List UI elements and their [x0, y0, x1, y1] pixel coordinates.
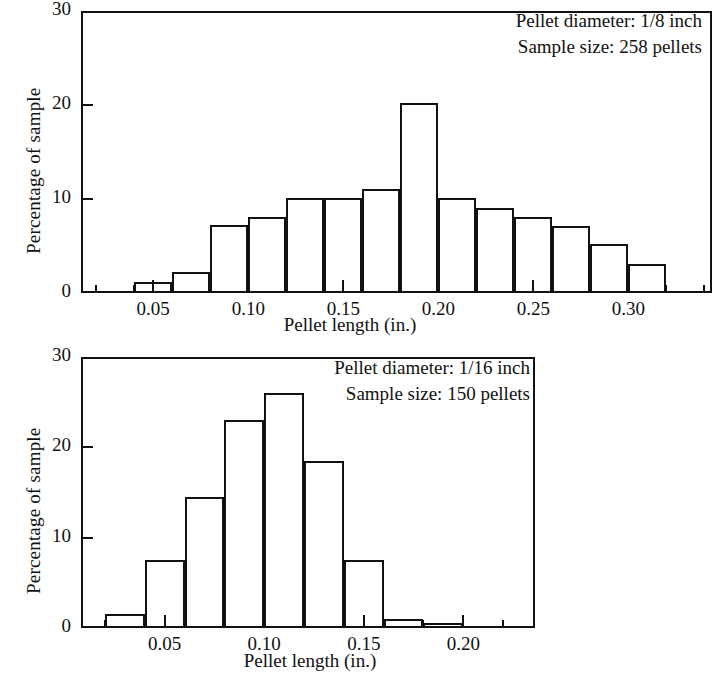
histogram-bar [145, 560, 185, 628]
histogram-bar [590, 244, 628, 293]
annotation-top-line1: Pellet diameter: 1/8 inch [406, 8, 702, 34]
histogram-bar [248, 217, 286, 293]
annotation-bottom: Pellet diameter: 1/16 inch Sample size: … [286, 355, 530, 407]
histogram-bar [344, 560, 384, 628]
annotation-top-line2: Sample size: 258 pellets [406, 34, 702, 60]
histogram-bar [105, 614, 145, 628]
histogram-bar [224, 420, 264, 628]
histogram-bar [134, 282, 172, 293]
histogram-bar [476, 208, 514, 293]
histogram-bar [400, 103, 438, 293]
histogram-top: Percentage of sample Pellet length (in.)… [0, 0, 720, 345]
figure-page: Percentage of sample Pellet length (in.)… [0, 0, 720, 699]
histogram-bar [210, 225, 248, 293]
histogram-bar [304, 461, 344, 628]
histogram-bar [384, 619, 424, 628]
annotation-bottom-line2: Sample size: 150 pellets [286, 381, 530, 407]
annotation-bottom-line1: Pellet diameter: 1/16 inch [286, 355, 530, 381]
histogram-bar [185, 497, 225, 628]
histogram-bar [628, 264, 666, 293]
histogram-bar [514, 217, 552, 293]
histogram-bar [264, 393, 304, 628]
histogram-bar [552, 226, 590, 293]
histogram-bottom: Percentage of sample Pellet length (in.)… [0, 345, 720, 699]
annotation-top: Pellet diameter: 1/8 inch Sample size: 2… [406, 8, 702, 60]
histogram-bar [438, 198, 476, 293]
histogram-bar [172, 272, 210, 293]
histogram-bar [362, 189, 400, 293]
histogram-bar [286, 198, 324, 293]
histogram-bar [324, 198, 362, 293]
histogram-bar [423, 623, 463, 628]
